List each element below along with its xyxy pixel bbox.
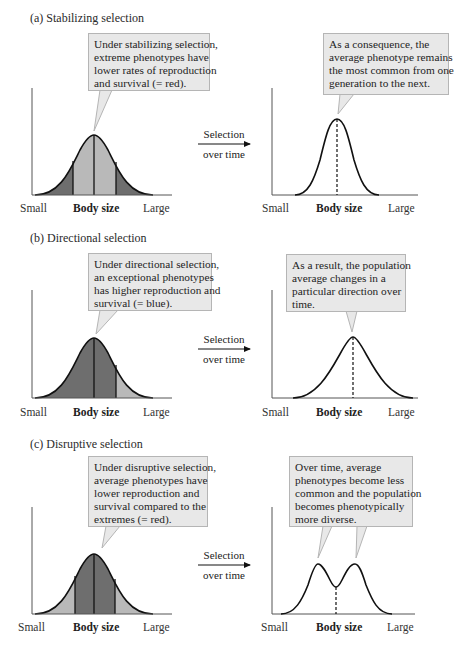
callout-line: average phenotype remains xyxy=(329,51,443,64)
panel-c-left-callout: Under disruptive selection, average phen… xyxy=(88,456,208,527)
panel-b-arrow-top-label: Selection xyxy=(194,333,254,345)
panel-a-arrow-bottom-label: over time xyxy=(194,148,254,160)
callout-line: common and the population xyxy=(295,487,407,500)
panel-a-arrow-top-label: Selection xyxy=(194,128,254,140)
callout-line: more diverse. xyxy=(295,513,407,526)
panel-c-right-callout: Over time, average phenotypes become les… xyxy=(289,456,413,527)
callout-line: Under stabilizing selection, xyxy=(94,38,204,51)
callout-line: Under directional selection, xyxy=(94,258,206,271)
panel-c-title: (c) Disruptive selection xyxy=(30,437,143,452)
extreme-large-region xyxy=(116,120,161,200)
panel-b-left-axis-title: Body size xyxy=(73,406,119,418)
panel-c-left-axis-large: Large xyxy=(143,621,170,633)
panel-a-right-callout: As a consequence, the average phenotype … xyxy=(323,33,449,95)
extreme-small-region xyxy=(30,120,73,200)
panel-b-left-axis-small: Small xyxy=(20,406,47,418)
callout-line: becomes phenotypically xyxy=(295,500,407,513)
panel-b-arrow-bottom-label: over time xyxy=(194,353,254,365)
panel-a-title: (a) Stabilizing selection xyxy=(30,11,144,26)
panel-a-right-chart xyxy=(272,88,418,195)
panel-c-arrow-top-label: Selection xyxy=(194,549,254,561)
panel-a-left-axis-small: Small xyxy=(20,202,47,214)
panel-c-right-axis-large: Large xyxy=(387,621,414,633)
panel-b-title: (b) Directional selection xyxy=(30,231,147,246)
panel-a-right-axis-large: Large xyxy=(388,202,415,214)
panel-a-right-axis-small: Small xyxy=(262,202,289,214)
callout-line: lower rates of reproduction xyxy=(94,64,204,77)
panel-b-left-axis-large: Large xyxy=(143,406,170,418)
panel-b-right-axis-small: Small xyxy=(262,406,289,418)
callout-line: As a consequence, the xyxy=(329,38,443,51)
panel-a-left-axis-title: Body size xyxy=(73,202,119,214)
callout-line: extremes (= red). xyxy=(94,513,202,526)
panel-b-right-callout: As a result, the population average chan… xyxy=(286,254,406,312)
panel-c-left-axis-small: Small xyxy=(18,621,45,633)
favored-large-region xyxy=(115,540,161,620)
panel-c-right-axis-title: Body size xyxy=(316,621,362,633)
panel-c-arrow-bottom-label: over time xyxy=(194,569,254,581)
panel-a-left-axis-large: Large xyxy=(143,202,170,214)
callout-line: average changes in a xyxy=(292,272,400,285)
callout-line: lower reproduction and xyxy=(94,487,202,500)
callout-line: survival (= blue). xyxy=(94,297,206,310)
callout-line: Under disruptive selection, xyxy=(94,461,202,474)
panel-b-right-axis-title: Body size xyxy=(316,406,362,418)
callout-line: particular direction over xyxy=(292,285,400,298)
panel-b-left-callout: Under directional selection, an exceptio… xyxy=(88,253,212,311)
panel-c-left-axis-title: Body size xyxy=(73,621,119,633)
callout-line: average phenotypes have xyxy=(94,474,202,487)
callout-line: extreme phenotypes have xyxy=(94,51,204,64)
callout-line: phenotypes become less xyxy=(295,474,407,487)
below-threshold-region xyxy=(30,320,116,405)
panel-b-right-axis-large: Large xyxy=(388,406,415,418)
callout-line: has higher reproduction and xyxy=(94,284,206,297)
callout-line: the most common from one xyxy=(329,64,443,77)
callout-line: an exceptional phenotypes xyxy=(94,271,206,284)
callout-line: survival compared to the xyxy=(94,500,202,513)
callout-line: and survival (= red). xyxy=(94,77,204,90)
panel-a-left-chart xyxy=(30,88,172,200)
callout-line: time. xyxy=(292,298,400,311)
selected-against-middle-region xyxy=(75,540,115,620)
callout-line: Over time, average xyxy=(295,461,407,474)
callout-line: As a result, the population xyxy=(292,259,400,272)
panel-a-left-callout: Under stabilizing selection, extreme phe… xyxy=(88,33,210,91)
favored-large-region xyxy=(116,320,161,405)
panel-c-right-axis-small: Small xyxy=(261,621,288,633)
callout-line: generation to the next. xyxy=(329,77,443,90)
panel-a-right-axis-title: Body size xyxy=(316,202,362,214)
